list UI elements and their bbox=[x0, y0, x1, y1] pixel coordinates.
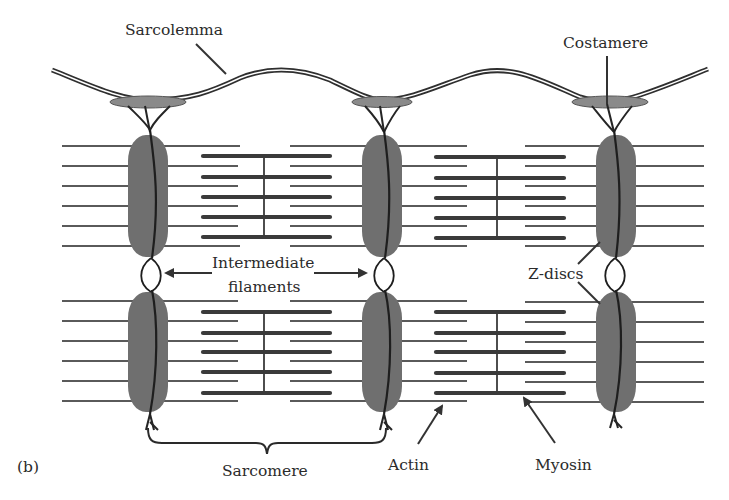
costamere-2 bbox=[352, 97, 412, 108]
muscle-structure-diagram: Sarcolemma Costamere Intermediate filame… bbox=[0, 0, 729, 500]
label-actin: Actin bbox=[387, 456, 429, 474]
label-sarcolemma: Sarcolemma bbox=[125, 21, 223, 39]
costamere-3 bbox=[572, 96, 648, 108]
z-disc-bottom-tails bbox=[146, 414, 622, 430]
pointer-myosin bbox=[524, 398, 555, 443]
pointer-z-discs-lower bbox=[578, 282, 600, 304]
z-disc-bottom-3 bbox=[596, 292, 636, 412]
z-disc-top-1 bbox=[128, 135, 168, 257]
label-intermediate: Intermediate bbox=[212, 254, 314, 272]
pointer-actin bbox=[418, 406, 442, 444]
label-costamere: Costamere bbox=[563, 34, 648, 52]
label-filaments: filaments bbox=[228, 278, 301, 296]
costamere-1 bbox=[110, 96, 186, 108]
z-disc-top-2 bbox=[362, 135, 402, 257]
z-disc-bottom-1 bbox=[128, 292, 168, 412]
label-z-discs: Z-discs bbox=[528, 265, 584, 283]
pointer-sarcolemma bbox=[196, 44, 226, 74]
panel-label: (b) bbox=[17, 458, 39, 476]
z-disc-bottom-2 bbox=[362, 292, 402, 412]
sarcomere-brace bbox=[148, 428, 386, 454]
costamere-tethers bbox=[128, 104, 632, 132]
label-sarcomere: Sarcomere bbox=[222, 462, 308, 480]
label-myosin: Myosin bbox=[535, 456, 592, 474]
